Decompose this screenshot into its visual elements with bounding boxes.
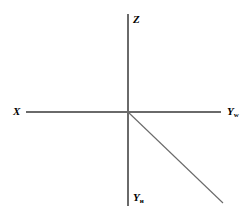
diagonal-ray-line [128,112,223,203]
axis-label-y-h-subscript: н [140,197,144,205]
axis-label-y-h: Yн [133,192,144,205]
axis-label-y-west: Yw [227,106,239,119]
axis-label-z: Z [133,14,140,25]
coordinate-axis-diagram: X Yw Z Yн [0,0,251,222]
axis-label-z-text: Z [133,13,140,25]
axis-label-y-west-text: Y [227,105,234,117]
axis-label-y-west-subscript: w [234,111,239,119]
axes-drawing [0,0,251,222]
axis-label-x: X [13,106,20,117]
axis-label-x-text: X [13,105,20,117]
axis-label-y-h-text: Y [133,191,140,203]
